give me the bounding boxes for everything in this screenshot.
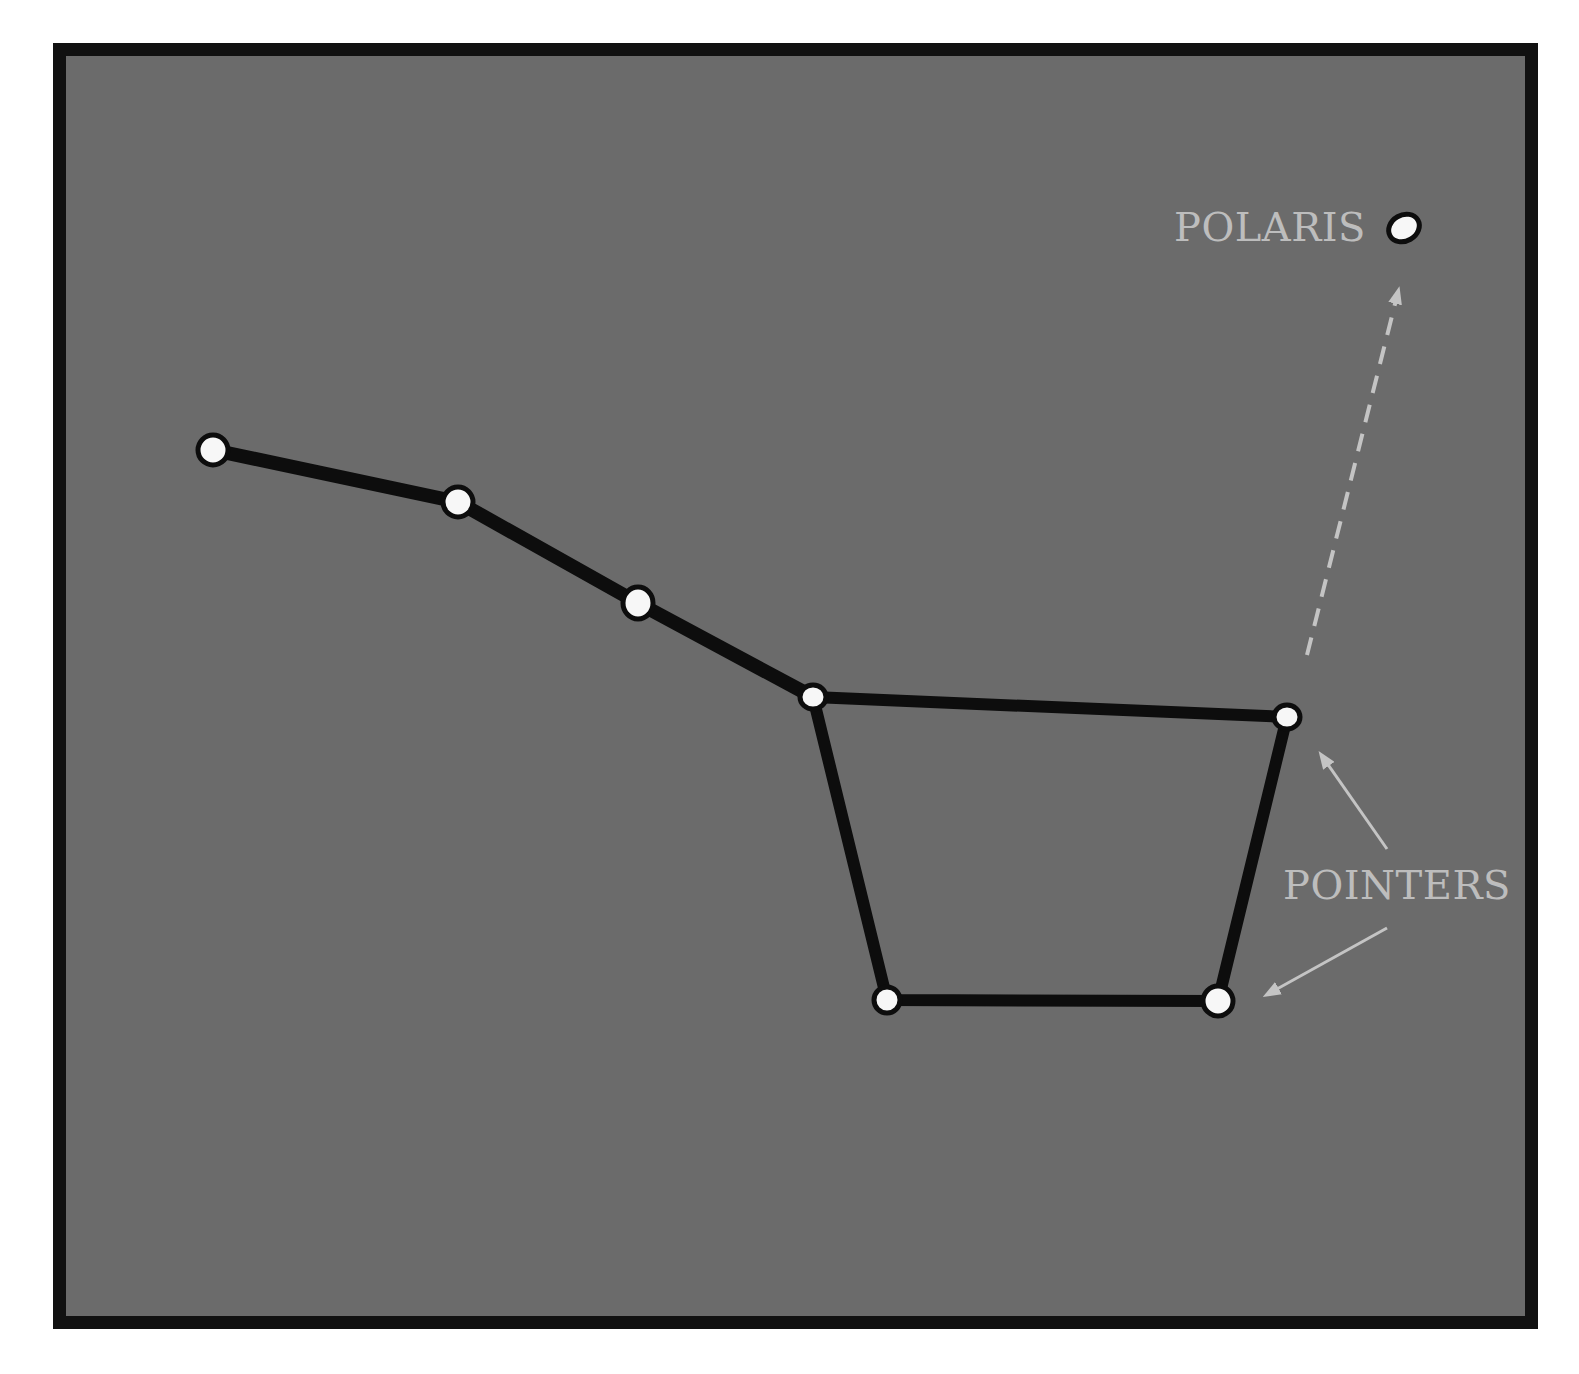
star-bowl-top-left — [800, 685, 826, 709]
pointer-arrow-lower — [1268, 928, 1387, 994]
bowl-outline — [813, 697, 1287, 1001]
star-handle-end — [198, 435, 228, 465]
star-handle-2 — [443, 487, 473, 517]
pointer-arrow-upper — [1322, 756, 1387, 849]
star-pointer-top — [1274, 705, 1300, 729]
star-pointer-bottom — [1203, 986, 1233, 1016]
star-bowl-bottom-left — [874, 987, 900, 1013]
star-handle-3 — [623, 587, 653, 619]
constellation-lines — [213, 450, 1287, 1001]
polaris-label: POLARIS — [1174, 204, 1366, 250]
pointers-label: POINTERS — [1283, 862, 1511, 908]
polaris-direction-arrow — [1307, 292, 1398, 655]
star-polaris — [1384, 209, 1425, 248]
handle-line — [213, 450, 813, 697]
